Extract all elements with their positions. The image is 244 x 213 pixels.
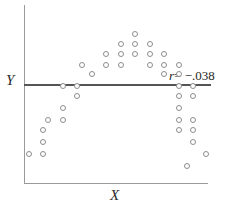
x-axis-label: X [110, 188, 119, 203]
data-point [79, 62, 85, 68]
data-point [147, 62, 153, 68]
data-point [74, 83, 80, 89]
data-point [40, 127, 46, 133]
data-point [161, 62, 167, 68]
data-point [176, 93, 182, 99]
data-point [190, 139, 196, 145]
data-point [190, 117, 196, 123]
data-point [176, 117, 182, 123]
data-point [40, 151, 46, 157]
data-point [132, 41, 138, 47]
data-point [161, 71, 167, 77]
data-point [176, 71, 182, 77]
data-point [26, 151, 32, 157]
data-point [176, 105, 182, 111]
data-point [147, 41, 153, 47]
data-point [147, 51, 153, 57]
data-point [190, 83, 196, 89]
mean-y-reference-line [24, 84, 211, 86]
data-point [184, 163, 190, 169]
data-point [89, 71, 95, 77]
data-point [118, 41, 124, 47]
data-point [161, 51, 167, 57]
x-axis-line [24, 183, 208, 184]
y-axis-line [24, 5, 25, 184]
scatterplot-figure: Y X r= −.038 [0, 0, 244, 213]
data-point [190, 93, 196, 99]
data-point [132, 51, 138, 57]
data-point [176, 83, 182, 89]
data-point [60, 83, 66, 89]
data-point [60, 117, 66, 123]
data-point [118, 62, 124, 68]
data-point [74, 93, 80, 99]
data-point [203, 151, 209, 157]
data-point [176, 127, 182, 133]
data-point [118, 51, 124, 57]
data-point [190, 127, 196, 133]
data-point [40, 139, 46, 145]
data-point [103, 51, 109, 57]
data-point [45, 117, 51, 123]
data-point [176, 62, 182, 68]
data-point [60, 105, 66, 111]
data-point [103, 62, 109, 68]
data-point [132, 31, 138, 37]
y-axis-label: Y [6, 73, 14, 88]
